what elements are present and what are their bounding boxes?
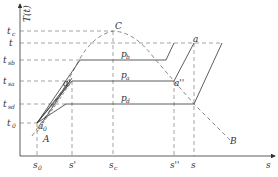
svg-text:t: t [7, 26, 11, 36]
point-labels: C A B a a0 a' a'' [38, 21, 237, 146]
svg-text:b: b [126, 53, 130, 60]
svg-text:s'': s'' [170, 160, 180, 170]
ts-diagram: T(t) tc t ts [0, 0, 278, 177]
svg-text:0: 0 [38, 164, 42, 171]
y-axis-label: T(t) [22, 5, 32, 22]
svg-text:t: t [3, 76, 7, 86]
svg-text:sa: sa [8, 80, 15, 87]
svg-text:t: t [9, 38, 13, 48]
svg-text:sd: sd [8, 103, 15, 110]
svg-text:a: a [193, 34, 198, 44]
svg-text:0: 0 [12, 122, 16, 129]
svg-text:a: a [126, 74, 130, 81]
svg-text:t: t [3, 55, 7, 65]
svg-text:s: s [266, 160, 271, 170]
svg-text:C: C [115, 21, 122, 31]
svg-text:t: t [7, 118, 11, 128]
x-tick-labels: s0 s' sc s'' s s [33, 160, 271, 171]
svg-text:0: 0 [43, 125, 47, 132]
svg-text:A: A [42, 134, 50, 144]
pressure-labels: pb pa pd [121, 49, 130, 104]
y-tick-labels: tc t tsb tsa tsd t0 [3, 26, 16, 129]
svg-text:a': a' [63, 78, 71, 88]
svg-text:sb: sb [8, 59, 15, 66]
svg-text:c: c [12, 30, 16, 37]
svg-text:d: d [126, 97, 130, 104]
axes [20, 4, 275, 156]
svg-text:B: B [229, 136, 237, 146]
svg-text:c: c [114, 164, 118, 171]
svg-text:s': s' [69, 160, 76, 170]
svg-text:t: t [3, 99, 7, 109]
svg-text:s: s [191, 160, 196, 170]
svg-text:a'': a'' [174, 78, 184, 88]
